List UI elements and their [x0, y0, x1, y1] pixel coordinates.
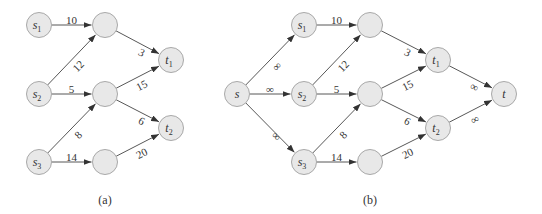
- edge-m2-t2: [116, 100, 159, 122]
- edge-capacity-label: ∞: [468, 80, 481, 94]
- node-m1: [358, 13, 383, 38]
- edge-capacity-label: 6: [402, 114, 413, 127]
- edge-capacity-label: 15: [134, 77, 150, 93]
- node-label: s: [235, 87, 240, 101]
- node-m3: [93, 150, 118, 175]
- node-s3: s3: [292, 150, 317, 175]
- edge-capacity-label: ∞: [270, 129, 284, 143]
- edge-capacity-label: ∞: [270, 59, 284, 73]
- node-s: s: [225, 82, 250, 107]
- node-s1: s1: [292, 13, 317, 38]
- edge-capacity-label: 20: [400, 145, 416, 161]
- edge-capacity-label: ∞: [266, 83, 274, 95]
- node-t2: t2: [426, 116, 451, 141]
- node-t1: t1: [159, 48, 184, 73]
- edge-s-s1: [246, 35, 295, 85]
- node-t2: t2: [159, 116, 184, 141]
- node-m1: [93, 13, 118, 38]
- node-s3: s3: [27, 150, 52, 175]
- node-m2: [358, 82, 383, 107]
- edge-capacity-label: 12: [70, 58, 86, 74]
- edge-capacity-label: 10: [66, 14, 78, 26]
- edge-s2-m1: [48, 35, 96, 85]
- node-m3: [358, 150, 383, 175]
- edge-capacity-label: 14: [66, 151, 78, 163]
- node-s2: s2: [27, 82, 52, 107]
- edge-capacity-label: 8: [337, 128, 350, 141]
- edge-m1-t1: [116, 31, 159, 54]
- edge-s-s3: [246, 103, 295, 152]
- edge-capacity-label: 3: [402, 46, 413, 59]
- node-s1: s1: [27, 13, 52, 38]
- flow-network-figure: 10125814315620∞∞∞10125814315620∞∞ s1s2s3…: [0, 0, 542, 214]
- node-m2: [93, 82, 118, 107]
- edge-capacity-label: ∞: [468, 112, 481, 126]
- node-t: t: [492, 82, 517, 107]
- edge-capacity-label: 12: [335, 58, 351, 74]
- edge-capacity-label: 8: [72, 128, 85, 141]
- edge-capacity-label: 3: [137, 46, 148, 59]
- edge-s3-m2: [313, 104, 361, 153]
- node-s2: s2: [292, 82, 317, 107]
- edge-capacity-label: 14: [331, 151, 343, 163]
- edge-capacity-label: 15: [400, 77, 416, 93]
- edge-m1-t1: [381, 31, 426, 54]
- edge-capacity-label: 5: [69, 83, 75, 95]
- edge-m2-t2: [381, 100, 426, 122]
- node-t1: t1: [426, 48, 451, 73]
- edge-capacity-label: 20: [134, 145, 150, 161]
- edge-capacity-label: 6: [136, 114, 147, 127]
- caption-b: (b): [363, 193, 377, 207]
- edge-s2-m1: [313, 35, 361, 85]
- caption-a: (a): [98, 193, 111, 207]
- edge-capacity-label: 5: [334, 83, 340, 95]
- edge-s3-m2: [48, 104, 96, 153]
- edge-capacity-label: 10: [331, 14, 343, 26]
